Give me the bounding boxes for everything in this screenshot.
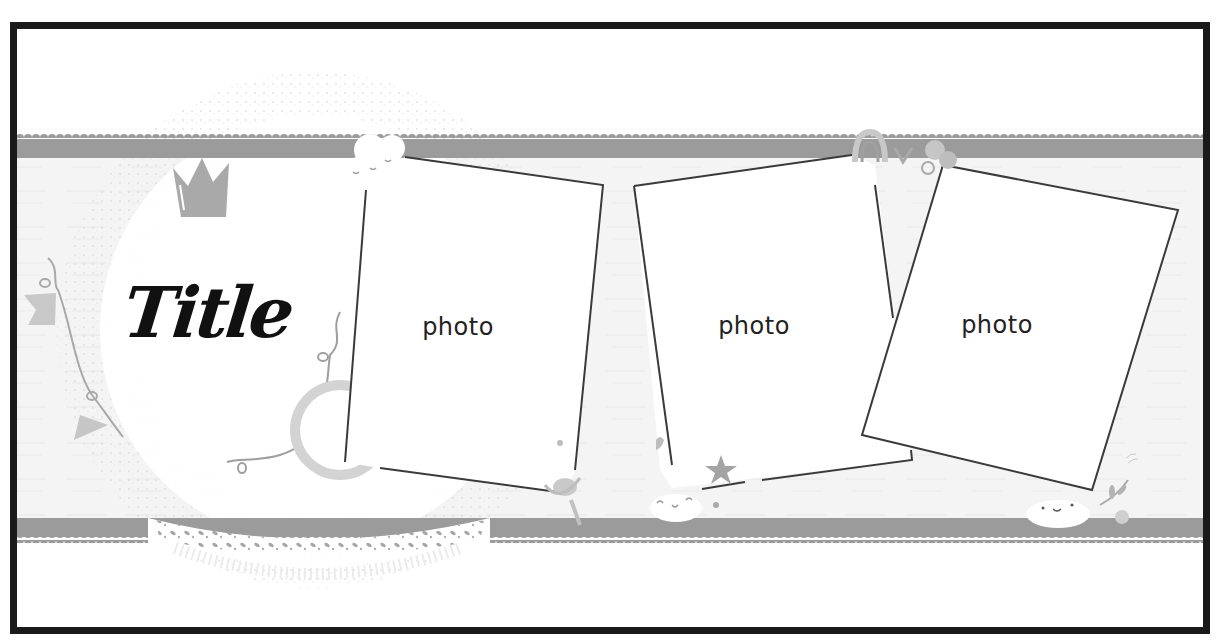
cloud-face-icon xyxy=(1026,500,1090,528)
photo-slot-2-label[interactable]: photo xyxy=(718,312,790,340)
photo-slot-1-label[interactable]: photo xyxy=(422,313,494,341)
layout-title[interactable]: Title xyxy=(120,278,295,348)
photo-slot-3-label[interactable]: photo xyxy=(961,311,1033,339)
top-scalloped-band xyxy=(17,133,1203,158)
